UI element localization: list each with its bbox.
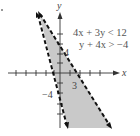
inequality-graph [0, 0, 140, 136]
tick-label-y-4: 4 [64, 48, 69, 58]
inequality-1: 4x + 3y < 12 [73, 28, 127, 39]
tick-label-x-3: 3 [72, 81, 77, 91]
y-axis-label: y [57, 1, 61, 11]
x-axis-label: x [122, 68, 126, 78]
inequality-2: y + 4x > −4 [79, 40, 128, 51]
tick-label-y-neg4: −4 [42, 90, 53, 100]
y-axis-arrow-icon [58, 12, 63, 19]
x-axis-arrow-icon [113, 71, 120, 76]
